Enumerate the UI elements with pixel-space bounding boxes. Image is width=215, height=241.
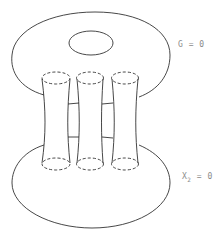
tube-1 (42, 72, 70, 170)
tube-3-left-wall (112, 79, 114, 163)
tube-3 (112, 72, 139, 170)
upper-surface-label-text: G = 0 (178, 40, 205, 49)
rungs (68, 103, 113, 138)
tube-1-left-wall (42, 79, 45, 163)
tube-2-bottom-ring (77, 158, 104, 170)
tube-2-top-ring (77, 72, 104, 84)
upper-surface-outline (12, 12, 170, 97)
tube-1-top-ring (42, 72, 70, 84)
rung-2-3-lower (102, 137, 113, 138)
tube-3-top-ring (112, 72, 139, 84)
lower-surface-outline (12, 145, 170, 228)
tube-2-left-wall (77, 79, 79, 163)
upper-surface-hole (69, 31, 113, 55)
diagram-canvas: G = 0 X2 = 0 (0, 0, 215, 241)
lower-surface-label-rest: = 0 (191, 172, 212, 181)
surface-diagram (0, 0, 215, 241)
rung-2-3-upper (102, 103, 113, 104)
tube-3-bottom-ring (112, 158, 139, 170)
tube-2 (77, 72, 104, 170)
tube-1-bottom-ring (42, 158, 70, 170)
tube-3-right-wall (136, 79, 138, 163)
upper-surface-label: G = 0 (178, 40, 205, 49)
rung-1-2-upper (68, 103, 79, 104)
tube-1-right-wall (68, 79, 70, 163)
lower-surface-label: X2 = 0 (182, 172, 213, 183)
tube-2-right-wall (102, 79, 104, 163)
